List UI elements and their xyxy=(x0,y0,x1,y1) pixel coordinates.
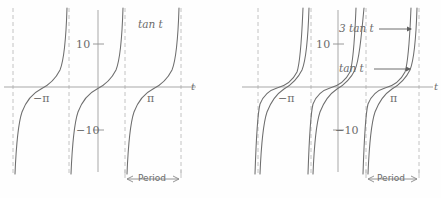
period-label-left: Period xyxy=(138,174,166,183)
x-tick-label-pi-right: π xyxy=(390,93,397,104)
three-tan-curve-group-right xyxy=(255,8,411,174)
x-tick-label-pi-left: π xyxy=(147,93,154,104)
curve-label-tan-t-right: tan t xyxy=(339,63,364,74)
tan-branch xyxy=(71,8,123,174)
tan-arrow-head xyxy=(406,67,411,72)
tan-branch xyxy=(127,8,179,174)
y-tick-label-10-right: 10 xyxy=(316,39,330,50)
x-tick-label-neg-pi-left: −π xyxy=(33,93,49,104)
y-tick-label-neg10-right: −10 xyxy=(335,125,359,136)
tan-branch xyxy=(15,8,67,174)
curve-label-3-tan-t-right: 3 tan t xyxy=(339,23,374,34)
curve-label-tan-t-left: tan t xyxy=(138,19,163,30)
y-tick-label-10-left: 10 xyxy=(76,39,90,50)
three-tan-branch xyxy=(255,8,303,174)
y-tick-label-neg10-left: −10 xyxy=(76,125,100,136)
tan-curve-group-left xyxy=(15,8,179,174)
axis-label-t-left: t xyxy=(191,82,195,92)
right-plot-svg xyxy=(220,0,441,198)
axis-label-t-right: t xyxy=(434,82,438,92)
period-label-right: Period xyxy=(377,174,405,183)
chart-panel-left: 10 −10 −π π t tan t Period xyxy=(0,0,220,198)
x-tick-label-neg-pi-right: −π xyxy=(278,93,294,104)
chart-panel-right: 10 −10 −π π t 3 tan t tan t Period xyxy=(220,0,441,198)
tangent-graphs-figure: 10 −10 −π π t tan t Period xyxy=(0,0,441,198)
